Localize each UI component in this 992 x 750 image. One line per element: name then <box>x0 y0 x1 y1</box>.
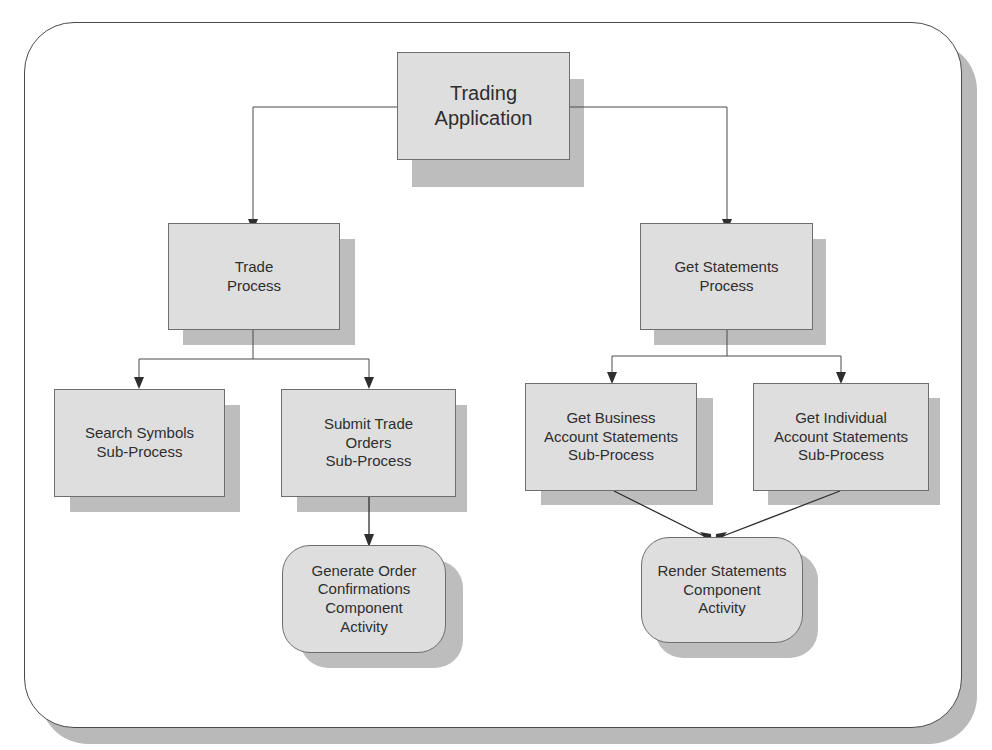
node-label: Submit Trade Orders Sub-Process <box>324 415 413 471</box>
submit-trade-orders-node[interactable]: Submit Trade Orders Sub-Process <box>281 389 456 497</box>
node-label: Render Statements Component Activity <box>657 562 786 618</box>
get-individual-statements-node[interactable]: Get Individual Account Statements Sub-Pr… <box>753 383 929 491</box>
trading-application-node[interactable]: Trading Application <box>397 52 570 160</box>
node-label: Get Statements Process <box>674 258 778 296</box>
get-business-statements-node[interactable]: Get Business Account Statements Sub-Proc… <box>525 383 697 491</box>
arrow-head-icon <box>364 377 374 389</box>
node-label: Trade Process <box>227 258 281 296</box>
generate-order-confirmations-node[interactable]: Generate Order Confirmations Component A… <box>282 545 446 653</box>
render-statements-node[interactable]: Render Statements Component Activity <box>641 537 803 643</box>
node-label: Generate Order Confirmations Component A… <box>311 562 416 637</box>
trade-process-node[interactable]: Trade Process <box>168 223 340 330</box>
node-label: Trading Application <box>435 81 533 131</box>
search-symbols-node[interactable]: Search Symbols Sub-Process <box>54 389 225 497</box>
node-label: Search Symbols Sub-Process <box>85 424 194 462</box>
node-label: Get Individual Account Statements Sub-Pr… <box>774 409 908 465</box>
node-label: Get Business Account Statements Sub-Proc… <box>544 409 678 465</box>
get-statements-process-node[interactable]: Get Statements Process <box>640 223 813 330</box>
arrow-head-icon <box>134 377 144 389</box>
